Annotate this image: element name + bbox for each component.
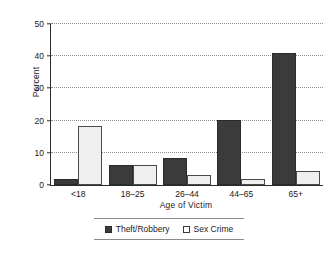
bar xyxy=(296,171,320,185)
bar xyxy=(241,179,265,185)
y-tick-label: 0 xyxy=(39,180,44,190)
x-tick-label: 26–44 xyxy=(175,189,199,199)
bar xyxy=(217,120,241,185)
y-tick-label: 10 xyxy=(35,148,44,158)
y-tick-label: 20 xyxy=(35,116,44,126)
bar-chart: Percent 01020304050 <1818–2526–4444–6565… xyxy=(0,0,333,257)
bar xyxy=(54,179,78,185)
x-tick-label: 65+ xyxy=(289,189,303,199)
legend-item: Theft/Robbery xyxy=(105,224,170,234)
plot-area: 01020304050 <1818–2526–4444–6565+ xyxy=(50,24,323,186)
x-tick-label: <18 xyxy=(71,189,85,199)
bar-groups: <1818–2526–4444–6565+ xyxy=(51,24,323,185)
bar-group: 26–44 xyxy=(160,24,214,185)
bar xyxy=(163,158,187,185)
bar xyxy=(272,53,296,185)
chart-legend: Theft/RobberySex Crime xyxy=(94,218,244,240)
legend-item: Sex Crime xyxy=(183,224,234,234)
legend-swatch-theft xyxy=(105,226,112,233)
x-tick-label: 18–25 xyxy=(121,189,145,199)
legend-label: Sex Crime xyxy=(194,224,234,234)
bar-group: 65+ xyxy=(269,24,323,185)
bar xyxy=(187,175,211,185)
y-tick-label: 50 xyxy=(35,19,44,29)
bar xyxy=(78,126,102,185)
bar xyxy=(109,165,133,185)
x-tick-label: 44–65 xyxy=(230,189,254,199)
y-tick-label: 30 xyxy=(35,83,44,93)
bar-group: <18 xyxy=(51,24,105,185)
y-tick-label: 40 xyxy=(35,51,44,61)
legend-label: Theft/Robbery xyxy=(116,224,170,234)
bar-group: 44–65 xyxy=(214,24,268,185)
bar-group: 18–25 xyxy=(105,24,159,185)
bar xyxy=(133,165,157,185)
legend-swatch-sex xyxy=(183,226,190,233)
x-axis-title: Age of Victim xyxy=(50,200,322,210)
